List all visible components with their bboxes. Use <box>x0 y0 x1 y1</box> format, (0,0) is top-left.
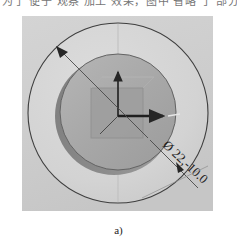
cad-figure-graphic: Ø 22,-10.0 <box>22 16 213 211</box>
clipped-text-line: 为了 便于 观察 加工 效果，图中 省略 了 部分 刀具 轨迹 <box>2 0 237 8</box>
figure-panel: Ø 22,-10.0 <box>22 16 213 211</box>
figure-caption: a) <box>0 224 237 236</box>
square-pocket-feature <box>91 88 143 138</box>
clipped-body-text-strip: 为了 便于 观察 加工 效果，图中 省略 了 部分 刀具 轨迹 <box>0 0 237 11</box>
